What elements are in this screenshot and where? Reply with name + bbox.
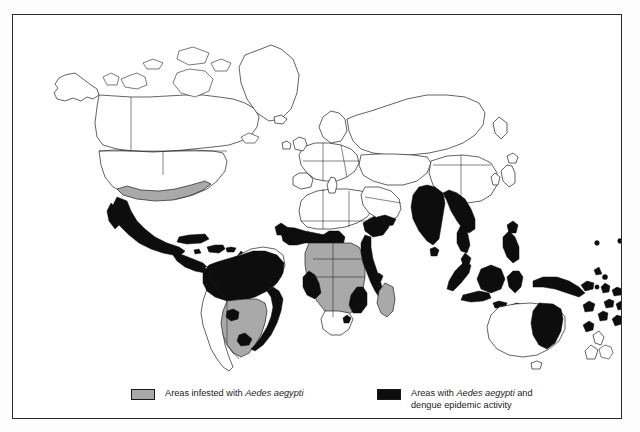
- pacific-island-dot: [595, 241, 600, 246]
- pacific-island-dot: [583, 321, 594, 332]
- world-map: [13, 15, 621, 383]
- region-alaska: [54, 73, 99, 101]
- region-comoros: [374, 273, 383, 281]
- region-hokkaido: [507, 153, 518, 163]
- legend-text-pre: Areas with: [411, 388, 456, 398]
- legend-label-epidemic: Areas with Aedes aegypti and dengue epid…: [411, 388, 533, 411]
- region-mexico-epidemic: [113, 197, 185, 255]
- region-baffin-island: [173, 69, 213, 97]
- legend-item-infested: Areas infested with Aedes aegypti: [131, 388, 303, 400]
- region-iceland: [274, 115, 287, 124]
- legend-species-name: Aedes aegypti: [245, 388, 303, 398]
- legend-species-name: Aedes aegypti: [456, 388, 514, 398]
- region-north-america: [54, 45, 299, 201]
- map-frame: Areas infested with Aedes aegypti Areas …: [12, 14, 622, 419]
- region-hispaniola: [207, 245, 225, 253]
- region-ellesmere: [177, 47, 209, 65]
- pacific-island-dot: [612, 287, 621, 296]
- region-new-zealand-north: [593, 331, 604, 345]
- legend-line-2: dengue epidemic activity: [411, 400, 533, 412]
- region-pacific-outline-islet: [599, 345, 613, 359]
- legend-label-infested: Areas infested with Aedes aegypti: [165, 388, 303, 400]
- region-central-america: [173, 255, 209, 273]
- region-kamchatka: [493, 117, 507, 139]
- region-arctic-islet-b: [211, 59, 231, 71]
- region-japan: [501, 165, 515, 187]
- region-scandinavia: [319, 111, 347, 143]
- region-banks-island: [103, 73, 119, 85]
- pacific-island-dot: [601, 283, 610, 293]
- pacific-island-dot: [594, 267, 602, 275]
- region-ireland: [282, 141, 291, 149]
- region-new-zealand-south: [585, 345, 598, 359]
- legend-line-1: Areas infested with Aedes aegypti: [165, 388, 303, 400]
- pacific-island-dot: [583, 301, 595, 312]
- region-central-asia: [359, 154, 431, 185]
- figure-root: Areas infested with Aedes aegypti Areas …: [0, 0, 640, 432]
- region-jamaica: [194, 249, 201, 254]
- legend-swatch-infested: [131, 389, 155, 400]
- pacific-island-dot: [612, 315, 621, 326]
- region-java-epidemic: [461, 291, 491, 302]
- region-south-america: [201, 247, 285, 371]
- world-map-svg: [13, 15, 621, 383]
- map-legend: Areas infested with Aedes aegypti Areas …: [13, 381, 621, 419]
- region-india-epidemic: [411, 185, 445, 245]
- pacific-island-dot: [598, 311, 608, 321]
- region-brazil-interior-infested: [221, 299, 267, 357]
- pacific-island-dot: [602, 274, 607, 279]
- region-oceania: [487, 239, 621, 369]
- region-east-africa-epidemic: [361, 235, 383, 297]
- region-russia: [347, 95, 485, 155]
- region-sumatra-epidemic: [447, 263, 471, 291]
- region-philippines-epidemic: [503, 231, 519, 263]
- region-cuba: [177, 234, 209, 244]
- legend-item-epidemic: Areas with Aedes aegypti and dengue epid…: [377, 388, 533, 411]
- region-europe: [274, 111, 359, 193]
- legend-text-pre: Areas infested with: [165, 388, 245, 398]
- region-bismarck-epidemic: [581, 281, 594, 291]
- region-canada: [95, 95, 259, 152]
- region-philippines-north: [507, 221, 518, 233]
- region-puerto-rico: [226, 247, 236, 252]
- legend-text-post: and: [515, 388, 533, 398]
- region-asia: [347, 95, 594, 310]
- pacific-island-dot: [616, 301, 621, 310]
- pacific-island-dot: [618, 239, 621, 244]
- region-borneo-epidemic: [477, 265, 505, 293]
- legend-swatch-epidemic: [377, 389, 401, 400]
- region-arctic-islet-a: [143, 59, 163, 69]
- legend-line-1: Areas with Aedes aegypti and: [411, 388, 533, 400]
- pacific-island-dot: [595, 285, 599, 289]
- pacific-island-dot: [604, 299, 614, 308]
- region-sulawesi-epidemic: [507, 271, 523, 293]
- region-tasmania: [531, 361, 542, 369]
- region-senegal-epidemic: [275, 223, 287, 235]
- region-new-guinea-epidemic: [533, 277, 585, 297]
- region-victoria-island: [121, 73, 147, 89]
- region-sri-lanka-epidemic: [430, 247, 439, 256]
